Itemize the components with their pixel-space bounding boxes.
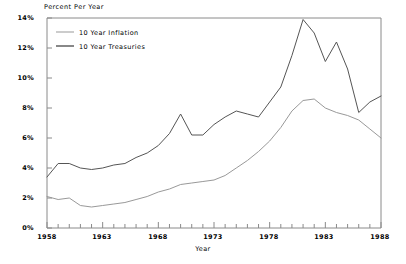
data-series <box>47 20 381 208</box>
legend-swatches <box>56 32 74 46</box>
axis-ticks <box>47 18 381 228</box>
chart-figure: Percent Per Year Year 14% 12% 10% 8% 6% … <box>0 0 406 264</box>
plot-canvas <box>0 0 406 264</box>
plot-frame <box>47 18 381 228</box>
